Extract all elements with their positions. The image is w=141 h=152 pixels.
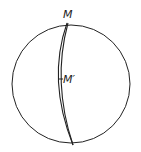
sphere-diagram: M M′	[0, 0, 141, 152]
label-m-prime: M′	[63, 73, 75, 86]
label-m: M	[63, 8, 73, 21]
